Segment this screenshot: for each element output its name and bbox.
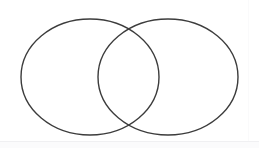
venn-circle-left[interactable] (21, 19, 159, 135)
venn-circle-right[interactable] (98, 19, 238, 135)
venn-diagram-canvas (0, 0, 259, 148)
venn-diagram-svg (0, 0, 259, 148)
